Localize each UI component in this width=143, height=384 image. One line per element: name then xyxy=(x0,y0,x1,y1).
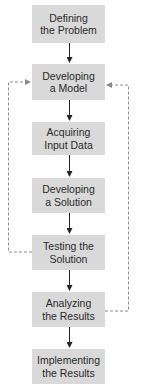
step-label-line1: Analyzing xyxy=(46,297,92,310)
step-label-line1: Defining xyxy=(49,12,88,25)
step-label-line2: the Results xyxy=(42,367,95,380)
step-defining-problem: Defining the Problem xyxy=(32,5,105,43)
step-label-line1: Testing the xyxy=(43,240,94,253)
step-label-line1: Acquiring xyxy=(47,126,91,139)
feedback-loop-left xyxy=(9,82,33,252)
step-developing-model: Developing a Model xyxy=(32,64,105,100)
step-implementing-results: Implementing the Results xyxy=(32,349,105,384)
step-acquiring-input-data: Acquiring Input Data xyxy=(32,122,105,155)
feedback-loop-right xyxy=(105,85,129,311)
step-label-line2: the Problem xyxy=(40,24,97,37)
step-label-line1: Developing xyxy=(42,183,95,196)
step-analyzing-results: Analyzing the Results xyxy=(32,292,105,327)
step-developing-solution: Developing a Solution xyxy=(32,178,105,213)
step-label-line1: Developing xyxy=(42,70,95,83)
step-label-line1: Implementing xyxy=(37,354,100,367)
step-label-line2: Solution xyxy=(50,253,88,266)
step-label-line2: a Solution xyxy=(45,196,92,209)
step-label-line2: the Results xyxy=(42,310,95,323)
step-label-line2: Input Data xyxy=(44,139,92,152)
step-testing-solution: Testing the Solution xyxy=(32,235,105,270)
step-label-line2: a Model xyxy=(50,82,87,95)
